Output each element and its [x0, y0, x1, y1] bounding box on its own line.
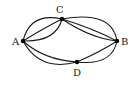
node-a [21, 39, 25, 43]
node-label-a: A [11, 36, 20, 47]
edge-d-b [77, 41, 117, 62]
graph-diagram: ACBD [0, 0, 134, 87]
edge-c-b [62, 19, 117, 41]
edges-group [23, 17, 117, 64]
edge-c-b [62, 19, 117, 41]
node-c [60, 17, 64, 21]
node-b [115, 39, 119, 43]
node-label-c: C [56, 4, 64, 15]
node-label-b: B [121, 36, 128, 47]
node-d [75, 60, 79, 64]
node-label-d: D [73, 67, 81, 78]
